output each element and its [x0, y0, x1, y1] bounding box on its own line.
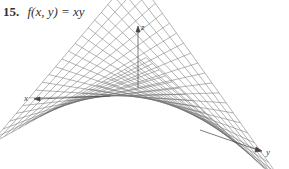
- y-axis-label: y: [266, 147, 270, 157]
- z-axis-label: z: [141, 22, 145, 32]
- x-axis-label: x: [24, 93, 28, 103]
